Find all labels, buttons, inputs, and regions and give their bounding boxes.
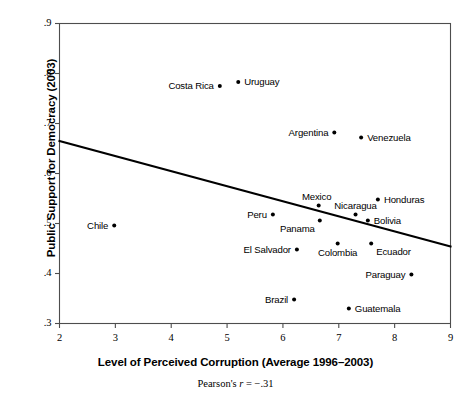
data-point bbox=[366, 219, 370, 223]
data-point bbox=[336, 242, 340, 246]
point-label: Bolivia bbox=[374, 215, 401, 226]
y-tick-label: .3 bbox=[30, 317, 52, 328]
x-axis-title: Level of Perceived Corruption (Average 1… bbox=[0, 356, 471, 368]
data-point bbox=[354, 213, 358, 217]
point-label: El Salvador bbox=[0, 244, 291, 255]
point-label: Costa Rica bbox=[0, 80, 214, 91]
x-tick-label: 2 bbox=[50, 332, 70, 343]
x-tick-label: 9 bbox=[441, 332, 461, 343]
y-axis-title: Public Support for Democracy (2003) bbox=[45, 13, 57, 303]
axis-ticks bbox=[55, 24, 451, 329]
point-label: Peru bbox=[0, 209, 267, 220]
data-point bbox=[218, 84, 222, 88]
point-label: Guatemala bbox=[355, 303, 401, 314]
pearson-r-caption: Pearson's r = −.31 bbox=[0, 378, 471, 389]
point-label: Paraguay bbox=[0, 269, 405, 280]
x-tick-label: 8 bbox=[385, 332, 405, 343]
point-label: Nicaragua bbox=[296, 200, 416, 211]
caption-value: = −.31 bbox=[243, 378, 273, 389]
x-tick-label: 4 bbox=[161, 332, 181, 343]
point-label: Uruguay bbox=[244, 76, 279, 87]
data-point bbox=[347, 307, 351, 311]
x-tick-label: 5 bbox=[217, 332, 237, 343]
data-point bbox=[292, 298, 296, 302]
data-point bbox=[318, 219, 322, 223]
scatter-chart-figure: .9.8.7.6.5.4.3 23456789 Costa RicaUrugua… bbox=[0, 0, 471, 402]
x-tick-label: 3 bbox=[105, 332, 125, 343]
point-label: Ecuador bbox=[376, 246, 411, 257]
data-point bbox=[271, 213, 275, 217]
point-label: Venezuela bbox=[367, 132, 410, 143]
data-point bbox=[409, 273, 413, 277]
data-point bbox=[359, 136, 363, 140]
data-point bbox=[332, 131, 336, 135]
point-label: Brazil bbox=[0, 294, 288, 305]
data-point bbox=[369, 242, 373, 246]
x-tick-label: 7 bbox=[329, 332, 349, 343]
x-tick-label: 6 bbox=[273, 332, 293, 343]
data-point bbox=[236, 80, 240, 84]
caption-prefix: Pearson's bbox=[197, 378, 239, 389]
